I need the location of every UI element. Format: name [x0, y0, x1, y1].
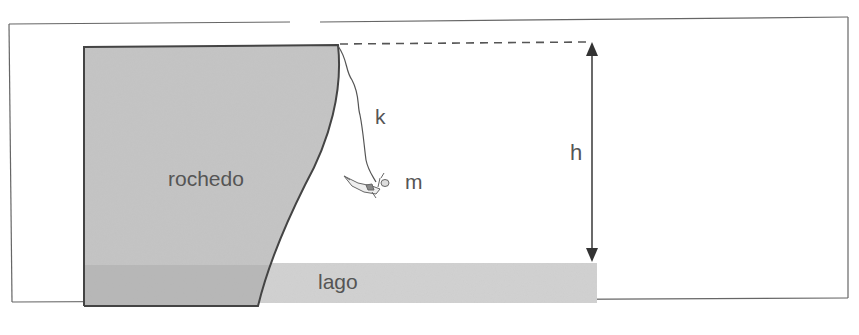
cord-constant-label: k: [375, 106, 386, 127]
jumper-figure-icon: [344, 173, 389, 198]
mass-label: m: [405, 171, 423, 192]
height-arrow: [586, 42, 598, 262]
bungee-cord: [338, 46, 376, 182]
diagram-canvas: [0, 0, 859, 335]
lake-label: lago: [318, 271, 358, 292]
height-label: h: [570, 142, 582, 164]
lake: [258, 263, 597, 303]
rock-label: rochedo: [168, 168, 244, 189]
reference-dashed-line: [340, 42, 586, 44]
